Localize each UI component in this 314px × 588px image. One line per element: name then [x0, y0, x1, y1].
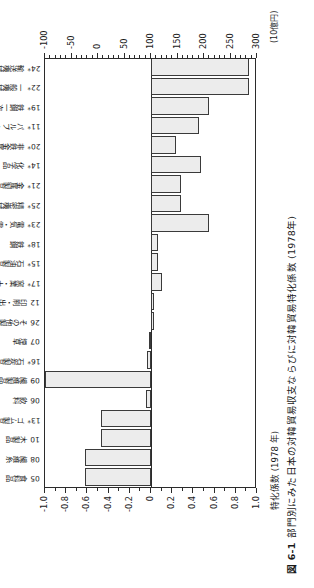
category-code: 19* — [27, 103, 40, 112]
category-name: 煙草 — [14, 337, 30, 346]
right-axis-minor-tick — [49, 55, 50, 58]
left-axis-tick-label: -1.0 — [39, 496, 49, 512]
left-axis-minor-tick — [76, 488, 77, 491]
category-code: 07 — [31, 337, 40, 346]
bar — [151, 117, 199, 135]
right-axis-tick — [177, 53, 178, 58]
bar — [151, 78, 249, 96]
left-axis-title: 特化係数 (1978 年) — [268, 431, 280, 510]
left-axis-tick — [235, 488, 236, 493]
right-axis-minor-tick — [155, 55, 156, 58]
category-label: 08 繊維糸 — [7, 455, 40, 463]
category-label: 05 食料品 — [7, 474, 40, 482]
category-code: 16* — [27, 357, 40, 366]
right-axis-tick — [71, 53, 72, 58]
left-axis-tick — [150, 488, 151, 493]
category-label: 17* 窯業・土石 — [0, 279, 40, 287]
right-axis-minor-tick — [219, 55, 220, 58]
right-axis-minor-tick — [161, 55, 162, 58]
right-axis-minor-tick — [60, 55, 61, 58]
figure-stage: 図 6-1部門別にみた日本の対韓貿易収支ならびに対韓貿易特化係数 (1978年)… — [0, 0, 314, 588]
right-axis-minor-tick — [192, 55, 193, 58]
right-axis-minor-tick — [171, 55, 172, 58]
bar — [151, 136, 176, 154]
bar — [151, 293, 154, 311]
bar — [151, 175, 181, 193]
bar — [151, 312, 154, 330]
right-axis-minor-tick — [76, 55, 77, 58]
left-axis-tick-label: -0.6 — [81, 496, 91, 512]
right-axis-minor-tick — [129, 55, 130, 58]
category-name: 金属製品 — [0, 181, 27, 190]
right-axis-tick — [230, 53, 231, 58]
left-axis-tick-label: 0.4 — [187, 496, 197, 509]
category-name: 非鉄金属一次製品 — [0, 142, 27, 151]
category-code: 26 — [31, 318, 40, 327]
right-axis-minor-tick — [235, 55, 236, 58]
category-code: 10 — [31, 435, 40, 444]
category-label: 15* 石油製品 — [0, 259, 40, 267]
category-name: 輸送機械 — [0, 64, 27, 73]
bar — [85, 468, 151, 486]
left-axis-minor-tick — [139, 488, 140, 491]
bar — [45, 371, 151, 389]
left-axis-tick — [65, 488, 66, 493]
category-label: 10 木製品 — [7, 435, 40, 443]
right-axis-minor-tick — [139, 55, 140, 58]
category-name: 繊維糸 — [7, 455, 30, 464]
right-axis-minor-tick — [81, 55, 82, 58]
category-label-row: 05 食料品08 繊維糸10 木製品13* ゴム製品06 飲料09 繊維製品16… — [0, 58, 42, 488]
right-axis-minor-tick — [55, 55, 56, 58]
left-axis-tick — [129, 488, 130, 493]
category-code: 13* — [27, 415, 40, 424]
right-axis-minor-tick — [113, 55, 114, 58]
bar — [151, 195, 181, 213]
right-axis-minor-tick — [86, 55, 87, 58]
left-axis-tick — [192, 488, 193, 493]
right-axis-tick-label: 250 — [225, 33, 235, 49]
category-code: 09 — [31, 376, 40, 385]
right-axis-tick-label: 200 — [198, 33, 208, 49]
left-axis-tick — [256, 488, 257, 493]
category-code: 20* — [27, 142, 40, 151]
category-label: 26 その他製造業 — [0, 318, 40, 326]
right-axis-tick-label: 50 — [119, 39, 129, 49]
category-code: 06 — [31, 396, 40, 405]
category-label: 09 繊維製品 — [0, 377, 40, 385]
right-axis-tick-label: 300 — [251, 33, 261, 49]
right-axis-minor-tick — [145, 55, 146, 58]
category-label: 25* 精密機械 — [0, 201, 40, 209]
left-axis-tick-label: 0.2 — [166, 496, 176, 509]
category-code: 12 — [31, 298, 40, 307]
category-code: 23* — [27, 220, 40, 229]
bar — [147, 351, 151, 369]
right-axis-minor-tick — [187, 55, 188, 58]
right-axis-minor-tick — [65, 55, 66, 58]
right-axis-tick — [150, 53, 151, 58]
left-axis-minor-tick — [224, 488, 225, 491]
left-axis-tick-label: 0.6 — [209, 496, 219, 509]
category-name: 飲料 — [14, 396, 30, 405]
right-axis-minor-tick — [108, 55, 109, 58]
bar — [151, 214, 209, 232]
right-axis-minor-tick — [214, 55, 215, 58]
plot-area — [44, 58, 256, 488]
category-code: 11* — [27, 122, 40, 131]
right-axis-minor-tick — [245, 55, 246, 58]
figure-number: 図 6-1 — [286, 543, 297, 574]
category-code: 15* — [27, 259, 40, 268]
category-label: 16* 石炭製品 — [0, 357, 40, 365]
bar — [151, 253, 158, 271]
category-name: 鉄鋼 — [11, 240, 27, 249]
category-name: 食料品 — [7, 474, 30, 483]
left-axis-tick — [108, 488, 109, 493]
right-axis-tick-label: 100 — [145, 33, 155, 49]
category-label: 14* 化学品 — [4, 162, 40, 170]
category-name: パルプ・紙 — [0, 122, 27, 131]
category-code: 25* — [27, 200, 40, 209]
left-axis-tick — [214, 488, 215, 493]
right-axis-tick — [256, 53, 257, 58]
left-axis-minor-tick — [97, 488, 98, 491]
right-axis-tick — [44, 53, 45, 58]
left-axis-minor-tick — [161, 488, 162, 491]
